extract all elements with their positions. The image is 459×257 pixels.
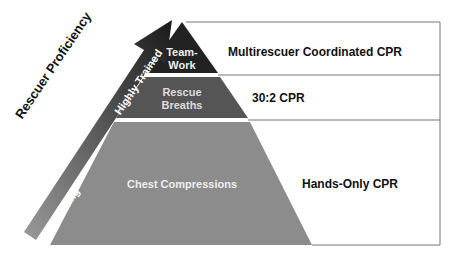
tier-teamwork-line1: Team- xyxy=(160,46,204,59)
description-chest-compressions: Hands-Only CPR xyxy=(302,177,398,191)
tier-chest-compressions-label: Chest Compressions xyxy=(120,178,244,190)
tier-rescue-breaths-line2: Breaths xyxy=(152,99,212,112)
tier-teamwork-line2: Work xyxy=(160,59,204,72)
description-rescue-breaths: 30:2 CPR xyxy=(252,91,305,105)
description-teamwork: Multirescuer Coordinated CPR xyxy=(228,45,402,59)
tier-rescue-breaths-line1: Rescue xyxy=(152,86,212,99)
tier-teamwork-label: Team- Work xyxy=(160,46,204,72)
tier-chest-compressions-line1: Chest Compressions xyxy=(127,178,237,190)
tier-rescue-breaths-label: Rescue Breaths xyxy=(152,86,212,112)
